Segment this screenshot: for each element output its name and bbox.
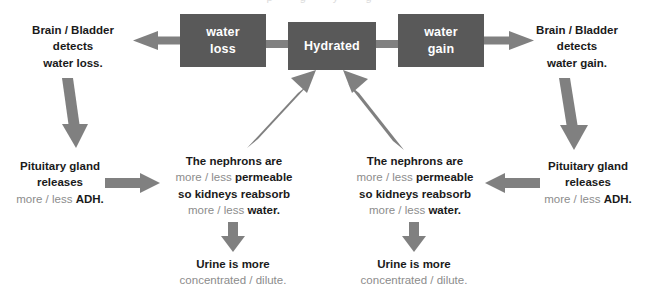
arrow-brain-left-to-pituitary-left [62,78,88,148]
box-water-gain-line2: gain [428,41,455,58]
label-pituitary-left-line3-soft: more / less [16,193,75,205]
label-nephrons-right-line3: so kidneys reabsorb [345,186,485,202]
label-pituitary-right-line2: releases [528,174,648,190]
label-nephrons-left-line3: so kidneys reabsorb [164,186,304,202]
label-brain-right-line3: water gain. [512,55,642,71]
arrow-hydrated-to-water-gain [374,40,398,48]
label-pituitary-right-line1: Pituitary gland [528,158,648,174]
box-water-loss-line1: water [206,24,240,41]
label-nephrons-right-line2-strong: permeable [416,171,474,183]
label-urine-left-line2: concentrated / dilute. [163,272,303,288]
box-water-gain-line1: water [424,24,458,41]
label-nephrons-right-line2: more / less permeable [345,169,485,185]
label-nephrons-left: The nephrons are more / less permeable s… [164,153,304,218]
cropped-title-text: p g y g [0,0,650,3]
label-pituitary-left: Pituitary gland releases more / less ADH… [0,158,120,207]
box-water-gain[interactable]: water gain [398,14,484,67]
arrow-nephrons-left-to-urine-left [221,222,245,252]
label-urine-right-line1: Urine is more [344,256,484,272]
box-hydrated[interactable]: Hydrated [288,22,376,70]
label-urine-right-line2: concentrated / dilute. [344,272,484,288]
label-nephrons-left-line2-strong: permeable [235,171,293,183]
label-pituitary-left-line2: releases [0,174,120,190]
label-brain-right-line1: Brain / Bladder [512,22,642,38]
box-water-loss-line2: loss [210,41,236,58]
arrow-urine-left-to-hydrated [247,70,316,148]
diagram-canvas: p g y g [0,0,650,299]
box-water-loss[interactable]: water loss [180,14,266,67]
label-nephrons-right-line2-soft: more / less [357,171,416,183]
label-nephrons-left-line4: more / less water. [164,202,304,218]
label-urine-left: Urine is more concentrated / dilute. [163,256,303,289]
label-nephrons-right-line4-strong: water. [428,204,461,216]
label-nephrons-left-line4-strong: water. [247,204,280,216]
label-pituitary-right-line3-strong: ADH. [604,193,632,205]
label-brain-left-line2: detects [8,38,138,54]
label-brain-left-line1: Brain / Bladder [8,22,138,38]
label-brain-right-line2: detects [512,38,642,54]
arrow-brain-right-to-pituitary-right [559,78,588,150]
label-nephrons-right: The nephrons are more / less permeable s… [345,153,485,218]
label-brain-left-line3: water loss. [8,55,138,71]
arrow-urine-right-to-hydrated [343,70,404,150]
label-urine-right: Urine is more concentrated / dilute. [344,256,484,289]
label-nephrons-left-line4-soft: more / less [188,204,247,216]
arrow-hydrated-to-water-loss [266,40,290,48]
label-brain-right: Brain / Bladder detects water gain. [512,22,642,71]
box-hydrated-line1: Hydrated [304,38,360,55]
label-nephrons-right-line4-soft: more / less [369,204,428,216]
label-urine-left-line1: Urine is more [163,256,303,272]
label-nephrons-left-line1: The nephrons are [164,153,304,169]
label-pituitary-left-line1: Pituitary gland [0,158,120,174]
label-nephrons-left-line2: more / less permeable [164,169,304,185]
label-nephrons-right-line1: The nephrons are [345,153,485,169]
label-pituitary-right: Pituitary gland releases more / less ADH… [528,158,648,207]
arrow-nephrons-right-to-urine-right [402,222,426,252]
arrow-water-loss-to-brain-left [133,31,183,50]
label-pituitary-right-line3: more / less ADH. [528,191,648,207]
label-nephrons-left-line2-soft: more / less [176,171,235,183]
label-pituitary-left-line3: more / less ADH. [0,191,120,207]
label-pituitary-right-line3-soft: more / less [544,193,603,205]
label-nephrons-right-line4: more / less water. [345,202,485,218]
label-brain-left: Brain / Bladder detects water loss. [8,22,138,71]
label-pituitary-left-line3-strong: ADH. [76,193,104,205]
